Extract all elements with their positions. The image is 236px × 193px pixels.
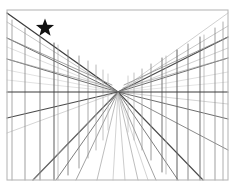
perspective-drawing-canvas (0, 0, 236, 193)
perspective-drawing-svg (0, 0, 236, 193)
